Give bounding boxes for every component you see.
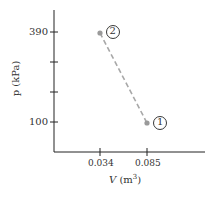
x-axis-label: V (m3) <box>109 173 141 185</box>
x-tick-label-0034: 0.034 <box>88 158 114 168</box>
y-tick-label-100: 100 <box>29 116 48 127</box>
x-axis-label-var: V <box>109 174 116 185</box>
y-tick-label-390: 390 <box>29 26 48 37</box>
x-axis-label-close: ) <box>137 174 141 185</box>
state-label-2: 2 <box>110 25 116 36</box>
x-tick-label-0085: 0.085 <box>135 158 161 168</box>
process-line <box>100 33 147 123</box>
state-label-1: 1 <box>157 116 163 127</box>
x-axis-label-unit: (m <box>119 174 132 185</box>
state-point-1 <box>144 120 149 125</box>
y-axis-label: p (kPa) <box>10 61 21 97</box>
state-point-2 <box>97 30 102 35</box>
